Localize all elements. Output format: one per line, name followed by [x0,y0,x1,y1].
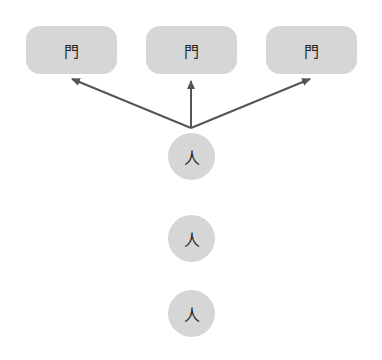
arrow-to-door-3 [191,79,310,128]
person-node-1: 人 [168,133,215,180]
arrow-to-door-1 [72,79,191,128]
door-label: 門 [64,40,79,61]
door-node-1: 門 [26,26,117,74]
person-node-3: 人 [168,290,215,337]
person-label: 人 [184,145,200,169]
person-label: 人 [184,302,200,326]
door-label: 門 [184,40,199,61]
door-node-2: 門 [146,26,237,74]
person-label: 人 [184,227,200,251]
person-node-2: 人 [168,215,215,262]
door-label: 門 [304,40,319,61]
door-node-3: 門 [266,26,357,74]
